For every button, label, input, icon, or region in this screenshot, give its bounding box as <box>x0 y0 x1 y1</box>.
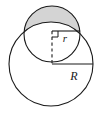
geometry-figure: r R <box>0 0 102 122</box>
large-radius-label: R <box>69 69 78 83</box>
right-angle-marker <box>52 31 58 37</box>
small-radius-label: r <box>63 32 68 44</box>
figure-canvas: r R <box>0 0 102 122</box>
shaded-region-clip <box>0 0 102 100</box>
shaded-region <box>0 0 102 100</box>
shaded-segment-group <box>0 0 102 100</box>
